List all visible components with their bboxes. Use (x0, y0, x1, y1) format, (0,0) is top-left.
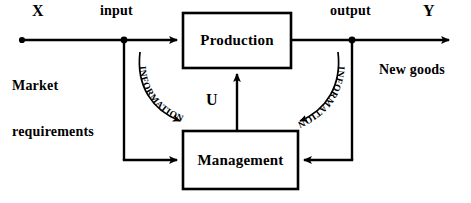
information-arc-left: INFORMATION (137, 52, 185, 124)
x-symbol-label: X (32, 2, 44, 19)
origin-dot (19, 37, 25, 43)
input-label: input (100, 3, 133, 18)
diagram-canvas: INFORMATION INFORMATION X Y input output… (0, 0, 471, 203)
information-right-label: INFORMATION (296, 66, 346, 130)
management-box-label: Management (183, 131, 298, 189)
output-label: output (330, 3, 371, 18)
control-symbol-label: U (206, 91, 218, 108)
market-requirements-line-2: requirements (12, 124, 94, 139)
y-symbol-label: Y (423, 2, 435, 19)
market-requirements-line-1: Market (12, 78, 94, 93)
market-requirements-label: Market requirements (12, 48, 94, 169)
new-goods-label: New goods (379, 62, 445, 77)
production-box-label: Production (183, 13, 291, 68)
information-left-label: INFORMATION (137, 66, 185, 124)
information-arc-right: INFORMATION (296, 52, 346, 130)
